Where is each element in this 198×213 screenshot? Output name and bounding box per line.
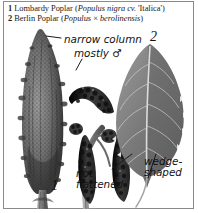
leader-mostly-male [76, 59, 82, 70]
caption-entry-1: 1 Lombardy Poplar (Populus nigra cv. 'It… [8, 4, 192, 14]
caption-entry-2-hybrid-sign: × [93, 14, 98, 23]
columnar-poplar-tree-illustration [18, 29, 68, 209]
annotation-not-flattened-line2: flattened [76, 179, 123, 190]
caption-entry-1-binomial: Populus nigra [78, 4, 125, 13]
caption-entry-1-cultivar-prefix: cv. [127, 4, 136, 13]
annotation-not-flattened: not flattened [76, 168, 123, 191]
caption-entry-2-number: 2 [8, 14, 12, 23]
annotation-wedge-shaped: wedge- shaped [144, 156, 182, 179]
caption-entry-2: 2 Berlin Poplar (Populus × berolinensis) [8, 14, 192, 24]
figure-number-leaf: 2 [150, 29, 157, 45]
caption-entry-1-common-name: Lombardy Poplar [14, 4, 73, 13]
catkin-upper [69, 86, 114, 113]
figure-number-tree: 1 [51, 178, 58, 194]
caption-entry-2-common-name: Berlin Poplar [14, 14, 59, 23]
annotation-mostly-male-line1: mostly ♂ [74, 47, 122, 59]
illustration-area: narrow column mostly ♂ not flattened wed… [4, 26, 193, 209]
caption-entry-1-paren-close: ) [162, 4, 165, 13]
leader-narrow-column [46, 36, 61, 38]
caption-entry-2-paren-close: ) [140, 14, 143, 23]
annotation-narrow-column-line1: narrow column [64, 33, 142, 45]
caption-entry-1-cultivar: 'Italica' [138, 4, 162, 13]
caption-block: 1 Lombardy Poplar (Populus nigra cv. 'It… [8, 4, 192, 24]
caption-entry-2-genus: Populus [64, 14, 91, 23]
caption-entry-1-number: 1 [8, 4, 12, 13]
annotation-wedge-shaped-line2: shaped [144, 167, 182, 178]
caption-entry-2-epithet: berolinensis [100, 14, 140, 23]
annotation-mostly-male: mostly ♂ [74, 48, 122, 59]
annotation-narrow-column: narrow column [64, 34, 142, 45]
illustration-plate: 1 Lombardy Poplar (Populus nigra cv. 'It… [3, 1, 194, 209]
